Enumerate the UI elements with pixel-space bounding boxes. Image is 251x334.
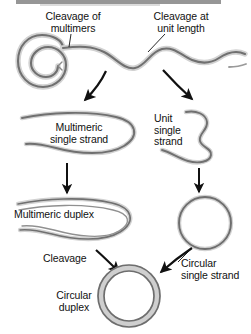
wavy-single-strand (63, 47, 245, 68)
label-circular-duplex: Circular duplex (50, 290, 98, 313)
node-rolling-circle (18, 35, 246, 87)
diagram-figure: Cleavage of multimers Cleavage at unit l… (0, 0, 251, 334)
label-cleavage-at-unit-length: Cleavage at unit length (140, 11, 222, 34)
diagram-canvas (0, 0, 251, 334)
spiral-coil-icon (18, 35, 66, 87)
label-circular-single-strand: Circular single strand (181, 258, 251, 281)
label-multimeric-single-strand: Multimeric single strand (40, 122, 118, 145)
node-circular-single-strand (179, 197, 231, 249)
label-cleavage: Cleavage (43, 253, 99, 265)
node-circular-duplex (98, 265, 160, 327)
label-cleavage-of-multimers: Cleavage of multimers (36, 11, 110, 34)
arrow-multimer-branch (85, 71, 106, 100)
strand-tail-stub (229, 64, 246, 67)
label-multimeric-duplex: Multimeric duplex (14, 209, 108, 221)
label-unit-single-strand: Unit single strand (154, 113, 194, 148)
arrow-unit-branch (163, 70, 192, 99)
